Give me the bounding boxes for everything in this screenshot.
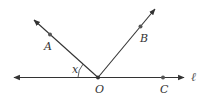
angle-x-arc (78, 64, 83, 77)
label-o: O (95, 83, 104, 96)
label-c: C (160, 83, 169, 96)
label-angle-x: x (72, 63, 79, 76)
point-o (96, 76, 100, 80)
point-b (139, 25, 143, 29)
label-a: A (43, 40, 52, 53)
point-c (161, 76, 165, 80)
label-b: B (139, 32, 148, 45)
point-a (48, 33, 52, 37)
geometry-diagram: A B O C x ℓ (0, 0, 207, 98)
label-line-l: ℓ (191, 70, 196, 84)
